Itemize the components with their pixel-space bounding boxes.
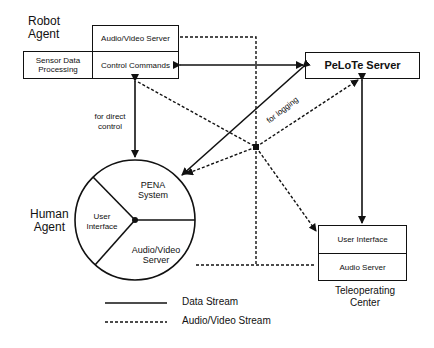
teleop-audio-label: Audio Server — [339, 263, 385, 272]
pelote-server-box: PeLoTe Server — [305, 52, 420, 79]
av-line: Audio/Video — [128, 245, 184, 255]
teleop-ui-box: User Interface — [318, 225, 407, 254]
pena-line: PENA — [128, 180, 178, 190]
legend-data-stream: Data Stream — [182, 297, 238, 307]
human-agent-title: Human Agent — [30, 208, 69, 234]
direct-line: for direct — [90, 112, 130, 122]
sensor-data-box: Sensor DataProcessing — [23, 51, 93, 79]
sensor-line: Processing — [38, 65, 78, 74]
teleop-audio-box: Audio Server — [318, 253, 407, 281]
teleop-ui-label: User Interface — [337, 235, 387, 244]
robot-av-server-box: Audio/Video Server — [92, 25, 179, 52]
robot-agent-title-line: Agent — [28, 28, 60, 41]
human-title-line: Agent — [30, 221, 69, 234]
ui-line: User — [80, 212, 124, 222]
control-commands-box: Control Commands — [92, 51, 179, 79]
pelote-server-label: PeLoTe Server — [324, 61, 400, 70]
sensor-data-label: Sensor DataProcessing — [36, 56, 80, 74]
pena-line: System — [128, 190, 178, 200]
human-ui-label: User Interface — [80, 212, 124, 232]
human-av-server-label: Audio/Video Server — [128, 245, 184, 265]
teleop-title-line: Teleoperating — [320, 285, 410, 297]
ui-line: Interface — [80, 222, 124, 232]
teleop-title-line: Center — [320, 297, 410, 309]
robot-agent-title: Robot Agent — [28, 15, 60, 41]
pena-system-label: PENA System — [128, 180, 178, 200]
av-line: Server — [128, 255, 184, 265]
robot-av-server-label: Audio/Video Server — [101, 34, 170, 43]
control-commands-label: Control Commands — [101, 61, 170, 70]
direct-line: control — [90, 122, 130, 132]
teleop-title: Teleoperating Center — [320, 285, 410, 309]
direct-control-note: for direct control — [90, 112, 130, 132]
sensor-line: Sensor Data — [36, 56, 80, 65]
legend-av-stream: Audio/Video Stream — [182, 316, 271, 326]
